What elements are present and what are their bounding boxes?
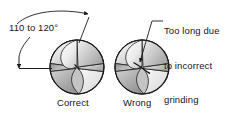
wrong-drill-point (115, 40, 169, 94)
grinding-note-line-2: to incorrect (164, 60, 220, 72)
drill-point-figure: 110 to 120° Too long due to incorrect gr… (0, 0, 247, 115)
angle-upper-leader (79, 17, 89, 43)
caption-correct: Correct (57, 97, 89, 108)
grinding-note: Too long due to incorrect grinding (164, 2, 220, 115)
angle-label: 110 to 120° (9, 22, 58, 33)
correct-drill-point (50, 40, 104, 94)
caption-wrong: Wrong (123, 97, 151, 108)
grinding-note-line-3: grinding (164, 94, 220, 106)
angle-lower-leader (19, 37, 30, 57)
grinding-note-line-1: Too long due (164, 25, 220, 37)
